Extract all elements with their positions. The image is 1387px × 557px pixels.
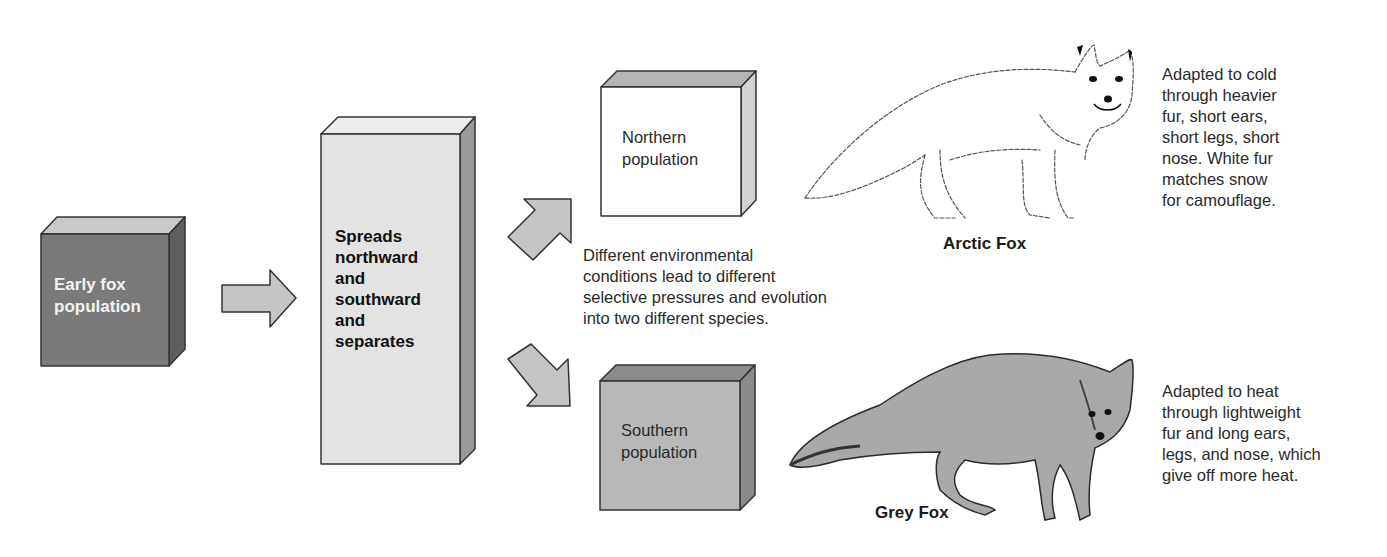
spreads-line-1: Spreads xyxy=(335,226,421,247)
grey-desc-line-4: legs, and nose, which xyxy=(1162,444,1321,465)
southern-line-1: Southern xyxy=(621,419,697,441)
arctic-fox-label: Arctic Fox xyxy=(943,234,1026,254)
grey-fox-label: Grey Fox xyxy=(875,503,949,523)
southern-line-2: population xyxy=(621,441,697,463)
arctic-desc-line-6: matches snow xyxy=(1162,169,1279,190)
grey-fox-illustration xyxy=(790,354,1133,520)
spreads-line-6: separates xyxy=(335,331,421,352)
spreads-line-2: northward xyxy=(335,247,421,268)
arctic-desc-line-4: short legs, short xyxy=(1162,127,1279,148)
grey-desc-line-5: give off more heat. xyxy=(1162,465,1321,486)
caption-line-4: into two different species. xyxy=(583,308,827,329)
arctic-desc-line-5: nose. White fur xyxy=(1162,148,1279,169)
northern-population-label: Northern population xyxy=(622,126,698,170)
arrow-up-right-icon xyxy=(508,199,571,260)
caption-line-3: selective pressures and evolution xyxy=(583,287,827,308)
northern-line-2: population xyxy=(622,148,698,170)
arrow-down-right-icon xyxy=(508,344,570,406)
northern-line-1: Northern xyxy=(622,126,698,148)
arctic-desc-line-1: Adapted to cold xyxy=(1162,64,1279,85)
spreads-line-4: southward xyxy=(335,289,421,310)
grey-desc-line-2: through lightweight xyxy=(1162,402,1321,423)
arrow-right-icon xyxy=(222,270,296,327)
caption-line-1: Different environmental xyxy=(583,245,827,266)
grey-desc-line-3: fur and long ears, xyxy=(1162,423,1321,444)
arctic-fox-illustration xyxy=(805,45,1133,218)
grey-fox-description: Adapted to heat through lightweight fur … xyxy=(1162,381,1321,486)
spreads-line-5: and xyxy=(335,310,421,331)
spreads-line-3: and xyxy=(335,268,421,289)
selective-pressure-caption: Different environmental conditions lead … xyxy=(583,245,827,329)
southern-population-label: Southern population xyxy=(621,419,697,463)
spreads-label: Spreads northward and southward and sepa… xyxy=(335,226,421,352)
early-label-line-2: population xyxy=(54,296,141,318)
early-population-label: Early fox population xyxy=(54,274,141,318)
arctic-desc-line-7: for camouflage. xyxy=(1162,190,1279,211)
arctic-desc-line-3: fur, short ears, xyxy=(1162,106,1279,127)
early-label-line-1: Early fox xyxy=(54,274,141,296)
caption-line-2: conditions lead to different xyxy=(583,266,827,287)
arctic-desc-line-2: through heavier xyxy=(1162,85,1279,106)
arctic-fox-description: Adapted to cold through heavier fur, sho… xyxy=(1162,64,1279,211)
grey-desc-line-1: Adapted to heat xyxy=(1162,381,1321,402)
